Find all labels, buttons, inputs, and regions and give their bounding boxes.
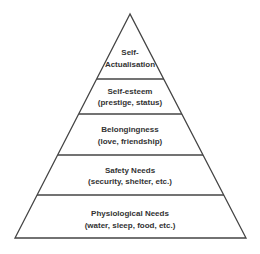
level-title: Self-	[0, 47, 260, 58]
level-title: Safety Needs	[0, 165, 260, 176]
level-title: Physiological Needs	[0, 208, 260, 219]
level-subtitle: (security, shelter, etc.)	[0, 176, 260, 187]
level-subtitle: (water, sleep, food, etc.)	[0, 220, 260, 231]
level-subtitle: (prestige, status)	[0, 97, 260, 108]
level-title-cont: Actualisation	[0, 59, 260, 70]
level-title: Belongingness	[0, 124, 260, 135]
level-subtitle: (love, friendship)	[0, 136, 260, 147]
level-title: Self-esteem	[0, 86, 260, 97]
